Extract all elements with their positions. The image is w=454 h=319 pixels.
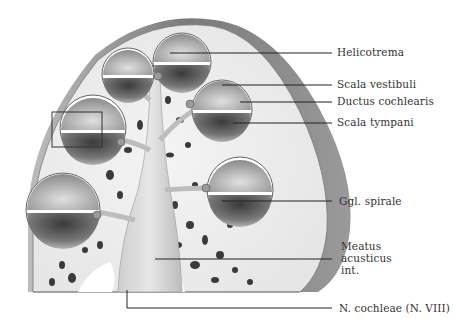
label-line: Meatus bbox=[341, 240, 392, 252]
label-scala-vestibuli: Scala vestibuli bbox=[337, 78, 416, 90]
label-line: int. bbox=[341, 264, 392, 276]
label-line: acusticus bbox=[341, 252, 392, 264]
label-meatus-acusticus-int: Meatus acusticus int. bbox=[341, 240, 392, 276]
cochlea-diagram: Helicotrema Scala vestibuli Ductus cochl… bbox=[0, 0, 454, 319]
label-helicotrema: Helicotrema bbox=[337, 46, 404, 58]
label-ggl-spirale: Ggl. spirale bbox=[339, 195, 402, 207]
label-ductus-cochlearis: Ductus cochlearis bbox=[337, 95, 434, 107]
label-scala-tympani: Scala tympani bbox=[337, 116, 414, 128]
label-n-cochleae: N. cochleae (N. VIII) bbox=[339, 302, 450, 314]
